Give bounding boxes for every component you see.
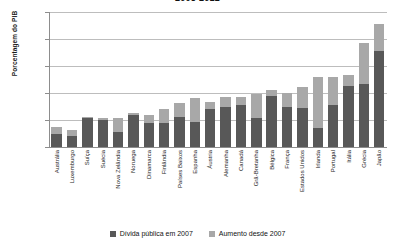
- x-axis-tick-label: Itália: [346, 150, 352, 163]
- bar-segment-divida[interactable]: [159, 123, 169, 147]
- bar-segment-aumento[interactable]: [144, 115, 154, 123]
- bar-segment-aumento[interactable]: [205, 102, 215, 110]
- stacked-bar[interactable]: [220, 97, 230, 147]
- x-axis-tick-label: Irlanda: [315, 150, 321, 168]
- stacked-bar[interactable]: [205, 102, 215, 147]
- legend-swatch-icon: [110, 231, 116, 237]
- bar-segment-aumento[interactable]: [236, 97, 246, 106]
- bar-segment-aumento[interactable]: [313, 77, 323, 128]
- x-axis-tick-label: Alemanha: [223, 150, 229, 177]
- bar-segment-divida[interactable]: [343, 86, 353, 147]
- bar-slot: [126, 12, 141, 147]
- stacked-bar[interactable]: [236, 97, 246, 147]
- bar-segment-divida[interactable]: [128, 115, 138, 147]
- stacked-bar[interactable]: [82, 117, 92, 147]
- bar-segment-divida[interactable]: [282, 107, 292, 147]
- x-axis-label-slot: Alemanha: [218, 148, 233, 218]
- x-axis-tick-label: Grã-Bretanha: [253, 150, 259, 186]
- bar-segment-divida[interactable]: [313, 128, 323, 147]
- x-axis-label-slot: Portugal: [325, 148, 340, 218]
- bar-segment-aumento[interactable]: [251, 94, 261, 118]
- bar-segment-aumento[interactable]: [51, 127, 61, 134]
- bar-slot: [233, 12, 248, 147]
- bar-segment-divida[interactable]: [67, 136, 77, 147]
- x-axis-tick-label: Estados Unidos: [299, 150, 305, 192]
- bar-segment-divida[interactable]: [220, 107, 230, 148]
- bar-segment-divida[interactable]: [51, 134, 61, 147]
- x-axis-label-slot: Noruega: [126, 148, 141, 218]
- stacked-bar[interactable]: [159, 109, 169, 147]
- stacked-bar[interactable]: [359, 43, 369, 147]
- stacked-bar[interactable]: [190, 98, 200, 147]
- bar-segment-divida[interactable]: [113, 132, 123, 147]
- bar-segment-divida[interactable]: [205, 109, 215, 147]
- bar-slot: [372, 12, 387, 147]
- plot-area: -104090140190240: [49, 12, 387, 147]
- stacked-bar[interactable]: [374, 24, 384, 147]
- bar-slot: [279, 12, 294, 147]
- bar-segment-divida[interactable]: [174, 117, 184, 147]
- bar-segment-divida[interactable]: [297, 108, 307, 147]
- bar-slot: [310, 12, 325, 147]
- stacked-bar[interactable]: [266, 90, 276, 147]
- bar-segment-aumento[interactable]: [113, 118, 123, 132]
- bar-segment-aumento[interactable]: [282, 93, 292, 107]
- bar-segment-divida[interactable]: [359, 84, 369, 147]
- chart-container: 2008-2012 Porcentagem do PIB -1040901401…: [0, 0, 395, 248]
- x-axis-label-slot: Austrália: [49, 148, 64, 218]
- x-axis-tick-label: Noruega: [130, 150, 136, 173]
- stacked-bar[interactable]: [144, 115, 154, 147]
- x-axis-tick-label: Dinamarca: [146, 150, 152, 179]
- bar-segment-divida[interactable]: [374, 51, 384, 147]
- bar-segment-divida[interactable]: [190, 122, 200, 147]
- bar-segment-aumento[interactable]: [174, 103, 184, 117]
- chart-title: 2008-2012: [0, 0, 395, 3]
- x-axis-label-slot: Itália: [341, 148, 356, 218]
- stacked-bar[interactable]: [313, 77, 323, 147]
- bar-segment-aumento[interactable]: [343, 75, 353, 86]
- stacked-bar[interactable]: [251, 94, 261, 147]
- x-axis-tick-label: Japão: [376, 150, 382, 166]
- x-axis-label-slot: Irlanda: [310, 148, 325, 218]
- bar-segment-aumento[interactable]: [359, 43, 369, 84]
- stacked-bar[interactable]: [282, 93, 292, 147]
- x-axis-label-slot: Dinamarca: [141, 148, 156, 218]
- bar-segment-aumento[interactable]: [297, 87, 307, 109]
- bar-segment-divida[interactable]: [98, 120, 108, 147]
- bar-segment-divida[interactable]: [236, 105, 246, 147]
- bar-slot: [203, 12, 218, 147]
- bar-segment-divida[interactable]: [328, 105, 338, 147]
- bar-segment-divida[interactable]: [144, 123, 154, 147]
- x-axis-tick-label: Países Baixos: [177, 150, 183, 188]
- bar-segment-aumento[interactable]: [220, 97, 230, 106]
- x-axis-label-slot: Nova Zelândia: [110, 148, 125, 218]
- stacked-bar[interactable]: [51, 127, 61, 147]
- bar-segment-divida[interactable]: [82, 118, 92, 147]
- x-axis-label-slot: Grécia: [356, 148, 371, 218]
- x-axis-tick-label: Portugal: [330, 150, 336, 172]
- stacked-bar[interactable]: [343, 75, 353, 147]
- stacked-bar[interactable]: [113, 118, 123, 147]
- legend-label: Dívida pública em 2007: [120, 230, 193, 237]
- x-axis-tick-label: França: [284, 150, 290, 169]
- bar-segment-divida[interactable]: [266, 96, 276, 147]
- bar-segment-aumento[interactable]: [374, 24, 384, 52]
- stacked-bar[interactable]: [328, 77, 338, 147]
- bar-segment-aumento[interactable]: [190, 98, 200, 122]
- stacked-bar[interactable]: [128, 113, 138, 147]
- stacked-bar[interactable]: [98, 118, 108, 147]
- x-axis-tick-label: Austrália: [54, 150, 60, 173]
- legend-label: Aumento desde 2007: [219, 230, 286, 237]
- bar-segment-aumento[interactable]: [159, 109, 169, 123]
- bar-slot: [325, 12, 340, 147]
- x-axis-label-slot: Suíça: [80, 148, 95, 218]
- x-axis-label-slot: Espanha: [187, 148, 202, 218]
- bar-segment-divida[interactable]: [251, 118, 261, 147]
- stacked-bar[interactable]: [174, 103, 184, 147]
- bar-segment-aumento[interactable]: [328, 77, 338, 105]
- bar-slot: [64, 12, 79, 147]
- x-axis-tick-label: Canadá: [238, 150, 244, 171]
- stacked-bar[interactable]: [67, 130, 77, 147]
- bar-slot: [249, 12, 264, 147]
- stacked-bar[interactable]: [297, 87, 307, 147]
